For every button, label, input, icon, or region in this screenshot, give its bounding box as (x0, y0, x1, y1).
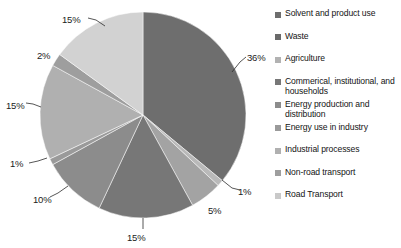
pie-percentage-label: 1% (238, 186, 251, 197)
legend-swatch-icon (275, 125, 281, 131)
leader-line-15-left (26, 103, 41, 107)
legend-swatch-icon (275, 102, 281, 108)
legend-item[interactable]: Agriculture (275, 53, 401, 64)
legend-item[interactable]: Solvent and product use (275, 8, 401, 19)
legend-swatch-icon (275, 34, 281, 40)
pie-slice-group (40, 12, 246, 218)
legend-swatch-icon (275, 193, 281, 199)
legend-item-label: Energy use in industry (285, 122, 368, 133)
legend-item[interactable]: Industrial processes (275, 144, 401, 155)
legend-item[interactable]: Road Transport (275, 189, 401, 200)
leader-line-10 (50, 186, 68, 197)
pie-percentage-label: 10% (33, 194, 51, 205)
leader-line-36 (232, 57, 246, 72)
pie-percentage-label: 5% (208, 205, 221, 216)
legend-item[interactable]: Waste (275, 31, 401, 42)
legend-swatch-icon (275, 12, 281, 18)
legend-item[interactable]: Non-road transport (275, 167, 401, 178)
legend-item[interactable]: Commerical, institutional, and household… (275, 76, 401, 97)
legend-item-label: Non-road transport (285, 167, 355, 178)
legend-swatch-icon (275, 148, 281, 154)
legend-item[interactable]: Energy production and distribution (275, 99, 401, 120)
legend-item-label: Waste (285, 31, 309, 42)
legend-item[interactable]: Energy use in industry (275, 122, 401, 133)
legend-item-label: Energy production and distribution (285, 99, 401, 120)
legend-swatch-icon (275, 57, 281, 63)
legend-item-label: Solvent and product use (285, 8, 375, 19)
legend-swatch-icon (275, 170, 281, 176)
legend-list: Solvent and product useWasteAgricultureC… (275, 8, 401, 200)
pie-percentage-label: 2% (37, 50, 50, 61)
leader-line-1-left (29, 158, 47, 163)
legend-item-label: Road Transport (285, 189, 343, 200)
pie-percentage-label: 1% (10, 158, 23, 169)
pie-percentage-label: 15% (6, 100, 24, 111)
chart-legend: Solvent and product useWasteAgricultureC… (275, 8, 401, 200)
legend-item-label: Industrial processes (285, 144, 359, 155)
pie-chart-figure: 36%1%5%15%10%1%15%2%15% Solvent and prod… (0, 0, 401, 248)
legend-item-label: Agriculture (285, 53, 325, 64)
legend-item-label: Commerical, institutional, and household… (285, 76, 401, 97)
legend-swatch-icon (275, 79, 281, 85)
pie-percentage-label: 15% (62, 14, 80, 25)
pie-percentage-label: 15% (127, 232, 145, 243)
pie-percentage-label: 36% (247, 52, 265, 63)
